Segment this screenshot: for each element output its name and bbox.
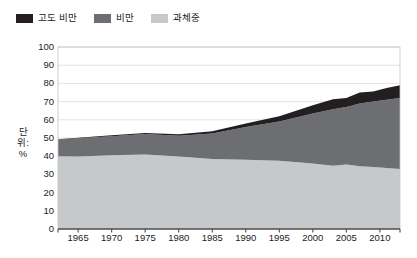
obesity-trend-chart: 고도 비만 비만 과체중 단위: % 010203040506070809010… xyxy=(0,0,417,258)
plot-area xyxy=(0,0,417,258)
area-series-과체중 xyxy=(58,154,400,229)
